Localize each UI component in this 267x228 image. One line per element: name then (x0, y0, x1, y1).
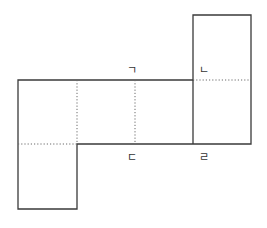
label-digeut: ㄷ (127, 151, 137, 164)
cube-net-diagram: ㄱ ㄴ ㄷ ㄹ (0, 0, 267, 228)
label-nieun: ㄴ (199, 64, 209, 77)
label-rieul: ㄹ (199, 151, 209, 164)
label-giyeok: ㄱ (127, 64, 137, 77)
